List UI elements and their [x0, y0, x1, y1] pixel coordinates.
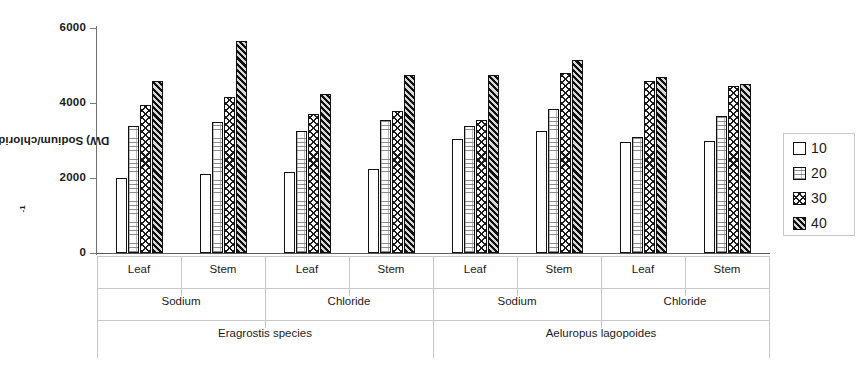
- bar-40-group-0[interactable]: [152, 81, 163, 254]
- bar-group-5: [517, 28, 601, 253]
- bar-30-group-4[interactable]: [476, 120, 487, 253]
- tier1-sep-3: [349, 256, 350, 296]
- tier2-sep-1: [265, 288, 266, 328]
- tier1-sep-1: [181, 256, 182, 296]
- bar-10-group-2[interactable]: [284, 172, 295, 253]
- category-label-sodium-1: Sodium: [97, 295, 265, 307]
- bar-20-group-6[interactable]: [632, 137, 643, 253]
- legend-swatch-20-icon: [793, 167, 806, 180]
- bar-group-0: [97, 28, 181, 253]
- legend-label-40: 40: [811, 215, 827, 231]
- bar-10-group-3[interactable]: [368, 169, 379, 253]
- legend-item-20[interactable]: 20: [793, 165, 827, 181]
- bar-20-group-7[interactable]: [716, 116, 727, 253]
- bar-40-group-7[interactable]: [740, 84, 751, 253]
- tier3-sep-2: [769, 320, 770, 358]
- bar-20-group-2[interactable]: [296, 131, 307, 253]
- bar-group-6: [601, 28, 685, 253]
- category-label-leaf-2: Leaf: [265, 263, 349, 275]
- category-label-stem-1: Stem: [181, 263, 265, 275]
- legend-label-10: 10: [811, 140, 827, 156]
- bar-30-group-0[interactable]: [140, 105, 151, 253]
- bar-chart-figure: Sodium/chloride (µmole g-1 DW) 0 2000 40…: [0, 0, 863, 365]
- tier2-top-rule: [97, 288, 770, 289]
- tier3-sep-1: [433, 320, 434, 358]
- bar-plot-area: [97, 28, 769, 253]
- bar-30-group-6[interactable]: [644, 81, 655, 254]
- category-label-species-aeluropus: Aeluropus lagopoides: [433, 327, 769, 339]
- tier1-sep-7: [685, 256, 686, 296]
- y-tick-label-6000-wrap: 6000: [0, 21, 86, 35]
- legend-item-30[interactable]: 30: [793, 190, 827, 206]
- bar-30-group-1[interactable]: [224, 97, 235, 253]
- bar-20-group-3[interactable]: [380, 120, 391, 253]
- bar-10-group-5[interactable]: [536, 131, 547, 253]
- x-axis-line: [96, 253, 770, 254]
- bar-40-group-1[interactable]: [236, 41, 247, 253]
- y-tick-label-4000-wrap: 4000: [0, 96, 86, 110]
- bar-30-group-2[interactable]: [308, 114, 319, 253]
- bar-10-group-1[interactable]: [200, 174, 211, 253]
- bar-10-group-7[interactable]: [704, 141, 715, 254]
- y-tick-label-2000-wrap: 2000: [0, 171, 86, 185]
- tier3-top-rule: [97, 320, 770, 321]
- bar-30-group-5[interactable]: [560, 73, 571, 253]
- legend-item-10[interactable]: 10: [793, 140, 827, 156]
- category-label-chloride-2: Chloride: [601, 295, 769, 307]
- bar-group-1: [181, 28, 265, 253]
- category-label-chloride-1: Chloride: [265, 295, 433, 307]
- bar-group-4: [433, 28, 517, 253]
- legend-item-40[interactable]: 40: [793, 215, 827, 231]
- bar-40-group-4[interactable]: [488, 75, 499, 253]
- bar-20-group-1[interactable]: [212, 122, 223, 253]
- y-tick-label-4000: 4000: [60, 96, 86, 108]
- y-axis-title-exponent: -1: [18, 205, 27, 212]
- y-tick-label-2000: 2000: [60, 171, 86, 183]
- bar-10-group-6[interactable]: [620, 142, 631, 253]
- legend-swatch-10-icon: [793, 142, 806, 155]
- bar-10-group-4[interactable]: [452, 139, 463, 253]
- bar-group-2: [265, 28, 349, 253]
- category-label-stem-3: Stem: [517, 263, 601, 275]
- y-axis-title-tail: DW): [0, 135, 110, 147]
- legend-label-30: 30: [811, 190, 827, 206]
- y-tick-label-0-wrap: 0: [0, 246, 86, 260]
- category-label-leaf-3: Leaf: [433, 263, 517, 275]
- y-tick-0: [90, 253, 97, 254]
- y-axis-title: Sodium/chloride (µmole g-1 DW): [14, 28, 36, 254]
- tier1-sep-5: [517, 256, 518, 296]
- category-label-stem-2: Stem: [349, 263, 433, 275]
- category-label-leaf-1: Leaf: [97, 263, 181, 275]
- category-label-species-eragrostis: Eragrostis species: [97, 327, 433, 339]
- bar-40-group-6[interactable]: [656, 77, 667, 253]
- bar-20-group-4[interactable]: [464, 126, 475, 254]
- bar-40-group-3[interactable]: [404, 75, 415, 253]
- legend-label-20: 20: [811, 165, 827, 181]
- category-label-leaf-4: Leaf: [601, 263, 685, 275]
- legend-swatch-40-icon: [793, 217, 806, 230]
- legend: 10 20 30 40: [783, 133, 855, 236]
- tier3-sep-0: [97, 320, 98, 358]
- bar-20-group-5[interactable]: [548, 109, 559, 253]
- y-tick-2000: [90, 178, 97, 179]
- y-tick-label-0: 0: [79, 246, 86, 258]
- y-tick-6000: [90, 28, 97, 29]
- bar-30-group-7[interactable]: [728, 86, 739, 253]
- bar-group-3: [349, 28, 433, 253]
- bar-40-group-2[interactable]: [320, 94, 331, 253]
- bar-40-group-5[interactable]: [572, 60, 583, 253]
- bar-group-7: [685, 28, 769, 253]
- tier1-top-rule: [97, 256, 770, 257]
- y-tick-4000: [90, 103, 97, 104]
- bar-30-group-3[interactable]: [392, 111, 403, 254]
- legend-swatch-30-icon: [793, 192, 806, 205]
- tier2-sep-3: [601, 288, 602, 328]
- bar-10-group-0[interactable]: [116, 178, 127, 253]
- y-tick-label-6000: 6000: [60, 21, 86, 33]
- category-label-stem-4: Stem: [685, 263, 769, 275]
- category-label-sodium-2: Sodium: [433, 295, 601, 307]
- bar-20-group-0[interactable]: [128, 126, 139, 254]
